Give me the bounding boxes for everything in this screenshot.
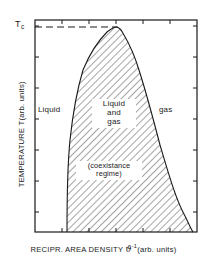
critical-temperature-label: Tc [15, 19, 24, 29]
tc-symbol: T [15, 19, 21, 29]
plot-canvas [0, 0, 207, 266]
phase-diagram-figure: Tc TEMPERATURE T(arb. units) RECIPR. ARE… [0, 0, 207, 266]
y-axis-ticks-right [193, 26, 197, 212]
phase-label-coexistence-regime: (coexistance regime) [76, 161, 142, 180]
phase-label-line-3: gas [94, 118, 134, 127]
x-axis-label-suffix: (arb. units) [137, 245, 176, 254]
x-axis-label-prefix: RECIPR. AREA DENSITY [30, 245, 125, 254]
phase-label-gas: gas [159, 106, 172, 115]
x-axis-label: RECIPR. AREA DENSITY ϑ-1(arb. units) [0, 245, 207, 255]
phase-label-liquid-and-gas: Liquid and gas [92, 99, 136, 128]
coexistence-region [67, 27, 193, 232]
phase-label-liquid: Liquid [38, 106, 60, 115]
y-axis-label: TEMPERATURE T(arb. units) [18, 64, 27, 204]
tc-subscript: c [21, 23, 24, 30]
coexistence-label-line-2: regime) [78, 170, 140, 178]
